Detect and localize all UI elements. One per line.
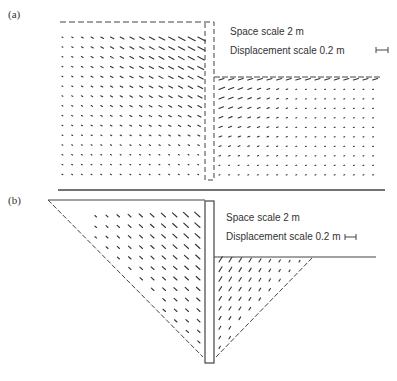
displacement-vector — [229, 107, 233, 109]
displacement-vector — [111, 47, 114, 49]
displacement-vector — [91, 47, 93, 48]
displacement-vector — [198, 125, 201, 126]
displacement-vector — [188, 135, 190, 136]
displacement-vector — [140, 37, 145, 40]
displacement-vector — [169, 37, 175, 40]
displacement-vector — [198, 135, 200, 136]
wall-b — [205, 201, 214, 363]
displacement-vector — [163, 288, 166, 291]
displacement-vector — [185, 266, 189, 269]
displacement-vector — [91, 86, 93, 87]
displacement-vector — [334, 79, 339, 81]
displacement-vector — [249, 307, 251, 310]
displacement-vector — [169, 66, 174, 69]
displacement-vector — [219, 326, 221, 329]
displacement-vector — [150, 214, 154, 217]
displacement-vector — [151, 235, 154, 238]
displacement-vector — [229, 327, 231, 330]
displacement-vector — [229, 317, 231, 320]
displacement-vector — [140, 115, 142, 116]
displacement-vector — [277, 136, 278, 137]
displacement-vector — [81, 86, 82, 87]
displacement-vector — [269, 269, 271, 272]
displacement-vector — [188, 106, 191, 108]
displacement-vector — [269, 259, 271, 262]
displacement-vector — [162, 245, 166, 248]
displacement-vector — [239, 307, 241, 310]
displacement-vector — [140, 246, 143, 249]
displacement-vector — [195, 234, 200, 238]
displacement-vector — [267, 136, 269, 137]
displacement-vector — [239, 317, 241, 320]
displacement-vector — [117, 236, 119, 238]
displacement-vector — [196, 255, 200, 259]
displacement-vector — [315, 79, 320, 81]
displacement-vector — [111, 106, 113, 107]
displacement-vector — [163, 309, 165, 311]
displacement-vector — [111, 66, 114, 67]
displacement-vector — [238, 79, 243, 81]
displacement-vector — [188, 96, 192, 98]
displacement-vector — [81, 76, 82, 77]
displacement-vector — [149, 125, 151, 126]
displacement-vector — [257, 98, 260, 99]
displacement-vector — [101, 96, 103, 97]
displacement-vector — [95, 216, 97, 217]
displacement-vector — [72, 86, 73, 87]
displacement-vector — [289, 270, 290, 272]
displacement-vector — [128, 236, 131, 238]
displacement-vector — [120, 86, 123, 87]
displacement-vector — [173, 224, 177, 228]
displacement-vector — [111, 37, 114, 39]
displacement-vector — [169, 96, 173, 98]
displacement-vector — [130, 135, 131, 136]
displacement-vector — [101, 66, 103, 67]
displacement-vector — [267, 127, 269, 128]
displacement-vector — [91, 145, 92, 146]
displacement-vector — [81, 125, 82, 126]
displacement-vector — [219, 267, 222, 272]
displacement-vector — [91, 115, 92, 116]
displacement-vector — [111, 57, 114, 59]
displacement-vector — [178, 125, 180, 126]
displacement-vector — [130, 57, 134, 59]
displacement-vector — [257, 107, 260, 108]
displacement-vector — [130, 96, 133, 97]
displacement-vector — [188, 57, 194, 60]
displacement-vector — [197, 319, 200, 322]
displacement-vector — [169, 76, 173, 78]
displacement-vector — [219, 136, 222, 137]
panel-b-space-scale: Space scale 2 m — [226, 212, 300, 223]
displacement-vector — [219, 257, 222, 262]
displacement-vector — [91, 76, 93, 77]
displacement-vector — [249, 288, 251, 291]
displacement-vector — [169, 145, 170, 146]
displacement-vector — [140, 47, 144, 49]
displacement-vector — [101, 86, 103, 87]
displacement-vector — [238, 146, 240, 147]
displacement-vector — [159, 96, 162, 98]
displacement-vector — [229, 307, 231, 310]
displacement-vector — [130, 106, 132, 107]
displacement-vector — [198, 106, 202, 108]
displacement-vector — [219, 277, 222, 282]
displacement-vector — [72, 47, 73, 48]
displacement-vector — [238, 155, 239, 156]
displacement-vector — [219, 97, 224, 99]
displacement-vector — [178, 135, 180, 136]
displacement-vector — [111, 135, 112, 136]
displacement-vector — [169, 135, 171, 136]
displacement-vector — [305, 79, 310, 81]
displacement-vector — [229, 117, 233, 118]
displacement-vector — [111, 86, 113, 87]
displacement-vector — [184, 245, 188, 249]
displacement-vector — [286, 108, 287, 109]
displacement-vector — [111, 115, 113, 116]
displacement-vector — [239, 287, 241, 290]
displacement-vector — [72, 37, 73, 38]
displacement-vector — [120, 47, 124, 49]
displacement-vector — [81, 135, 82, 136]
displacement-vector — [229, 257, 232, 262]
displacement-vector — [269, 279, 271, 281]
displacement-vector — [249, 268, 251, 271]
